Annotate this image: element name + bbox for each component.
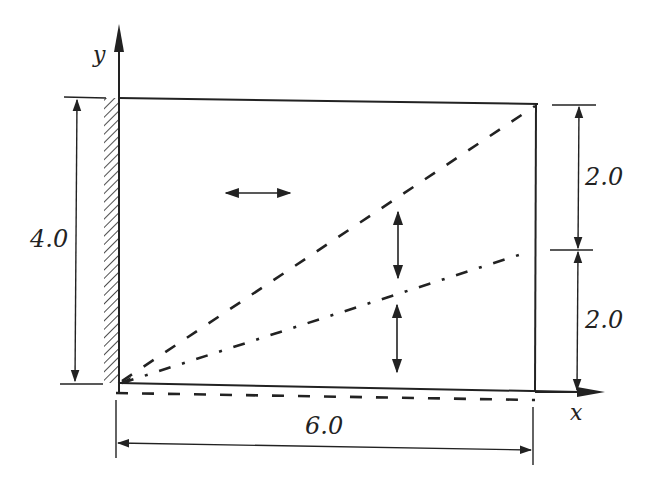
diagonal-dashed-line	[122, 106, 535, 381]
y-axis-label: y	[92, 42, 106, 67]
cantilever-diagram: y x 4.0 2.0 2.0 6.0	[0, 0, 657, 496]
plate-outline	[119, 98, 580, 392]
bottom-dashed-line	[116, 393, 535, 400]
x-axis-arrowhead-icon	[577, 387, 605, 397]
x-axis-label: x	[570, 400, 583, 425]
dimension-right-upper-label: 2.0	[584, 163, 623, 191]
mid-dash-dot-line	[122, 252, 528, 383]
y-axis-arrowhead-icon	[114, 24, 124, 52]
right-dimension	[550, 105, 596, 390]
dimension-height-label: 4.0	[29, 225, 68, 253]
dimension-width-label: 6.0	[305, 412, 343, 440]
x-axis	[535, 387, 605, 397]
fixed-wall	[104, 98, 118, 383]
dimension-right-lower-label: 2.0	[584, 306, 623, 334]
